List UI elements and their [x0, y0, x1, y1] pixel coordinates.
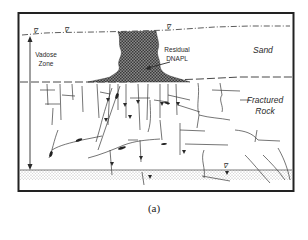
water-table-symbol-2: ∇ [64, 27, 68, 34]
water-table-symbol-3: ∇ [166, 24, 170, 31]
vadose-arrow-top [28, 36, 33, 42]
vadose-zone-label: Vadose Zone [35, 52, 57, 67]
sand-label: Sand [253, 46, 273, 55]
water-table-symbol-1: ∇ [33, 28, 37, 35]
vadose-zone-line2: Zone [35, 61, 57, 68]
water-table-symbol-bottom: ∇ [223, 163, 227, 170]
migration-arrows [104, 98, 229, 179]
vadose-zone-line1: Vadose [35, 52, 57, 59]
fractured-rock-line2: Rock [244, 107, 286, 116]
residual-dnapl-label: Residual DNAPL [162, 47, 192, 62]
vadose-arrow-bottom [28, 164, 33, 170]
sediment-layer [20, 170, 292, 180]
residual-dnapl-line2: DNAPL [162, 56, 192, 63]
fractured-rock-line1: Fractured [244, 96, 286, 105]
fractured-rock-label: Fractured Rock [244, 96, 286, 115]
residual-dnapl-line1: Residual [162, 47, 192, 54]
figure-caption: (a) [0, 202, 308, 214]
